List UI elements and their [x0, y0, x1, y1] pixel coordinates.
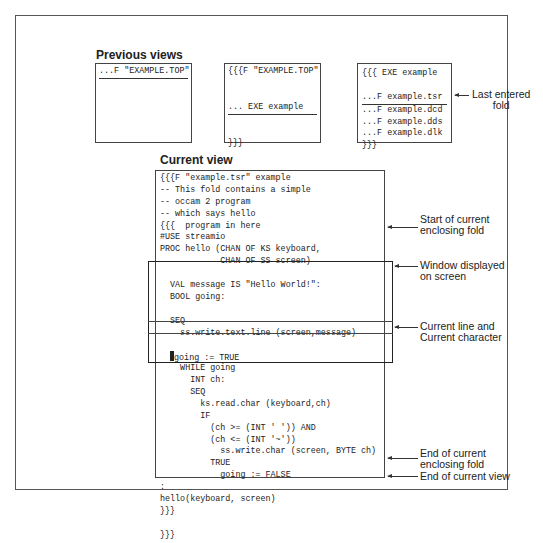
code-line: ...F example.tsr [362, 92, 447, 105]
label-current-line: Current line and Current character [420, 321, 502, 343]
code-line: ss.write.char (screen, BYTE ch) [160, 446, 380, 458]
code-line [228, 90, 317, 102]
code-line: ks.read.char (keyboard,ch) [160, 399, 380, 411]
code-line: }}} [228, 138, 317, 150]
arrow-left-icon [388, 227, 418, 228]
previous-view-3-code: {{{ EXE example...F example.tsr...F exam… [358, 64, 451, 156]
code-line: {{{ EXE example [362, 68, 447, 80]
code-line: #USE streamio [160, 232, 380, 244]
code-line: ...F "EXAMPLE.TOP" [99, 66, 188, 79]
previous-view-3: {{{ EXE example...F example.tsr...F exam… [357, 63, 452, 143]
code-line: hello(keyboard, screen) [160, 494, 380, 506]
arrow-left-icon [388, 458, 418, 459]
code-line: WHILE going [160, 363, 380, 375]
code-line: }}} [362, 140, 447, 152]
previous-view-1-code: ...F "EXAMPLE.TOP" [96, 64, 191, 81]
code-line: going := FALSE [160, 470, 380, 482]
previous-view-2-code: {{{F "EXAMPLE.TOP"... EXE example}}} [225, 64, 320, 152]
arrow-left-icon [395, 266, 418, 267]
code-line [362, 80, 447, 92]
label-end-current-view: End of current view [420, 471, 510, 482]
code-line: ...F example.dcd [362, 105, 447, 117]
code-line [228, 115, 317, 127]
code-line: ...F example.dds [362, 117, 447, 129]
code-line: {{{ program in here [160, 221, 380, 233]
code-line: (ch <= (INT '~')) [160, 435, 380, 447]
label-last-entered-fold: Last entered fold [472, 89, 530, 111]
code-line: -- This fold contains a simple [160, 185, 380, 197]
label-end-enclosing-fold: End of current enclosing fold [420, 448, 486, 470]
code-line: }}} [160, 530, 380, 542]
code-line: {{{F "EXAMPLE.TOP" [228, 66, 317, 78]
previous-views-heading: Previous views [96, 48, 183, 62]
code-line [228, 78, 317, 90]
current-view-heading: Current view [160, 153, 233, 167]
arrow-left-icon [388, 476, 418, 477]
code-line: -- occam 2 program [160, 197, 380, 209]
code-line: SEQ [160, 387, 380, 399]
screen-window-outline [148, 261, 393, 363]
arrow-left-icon [455, 95, 469, 96]
current-line-outline [148, 321, 393, 334]
code-line: -- which says hello [160, 209, 380, 221]
code-line: TRUE [160, 458, 380, 470]
label-window-displayed: Window displayed on screen [420, 260, 505, 282]
code-line: (ch >= (INT ' ')) AND [160, 423, 380, 435]
label-start-enclosing-fold: Start of current enclosing fold [420, 214, 489, 236]
previous-view-1: ...F "EXAMPLE.TOP" [95, 63, 192, 143]
code-line [160, 518, 380, 530]
code-line: PROC hello (CHAN OF KS keyboard, [160, 244, 380, 256]
code-line [228, 126, 317, 138]
previous-view-2: {{{F "EXAMPLE.TOP"... EXE example}}} [224, 63, 321, 143]
arrow-left-icon [395, 327, 418, 328]
code-line: ...F example.dlk [362, 128, 447, 140]
code-line: IF [160, 411, 380, 423]
code-line: ... EXE example [228, 102, 317, 115]
code-line: : [160, 482, 380, 494]
code-line: INT ch: [160, 375, 380, 387]
code-line: {{{F "example.tsr" example [160, 173, 380, 185]
code-line: }}} [160, 506, 380, 518]
